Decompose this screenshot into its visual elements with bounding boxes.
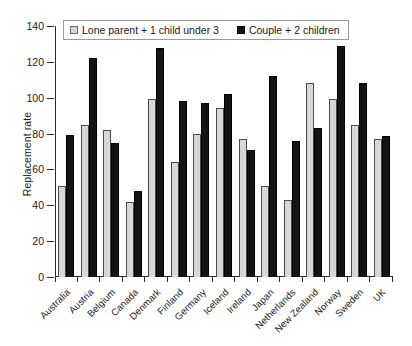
y-axis-tick-label: 140	[26, 20, 44, 32]
bar-lone-parent	[351, 125, 359, 277]
y-axis-tick-label: 0	[38, 271, 44, 283]
x-axis-tick	[190, 277, 213, 282]
bar-lone-parent	[306, 83, 314, 277]
legend-swatch-icon-couple	[237, 26, 245, 34]
x-axis-ticks	[55, 277, 393, 282]
bar-group	[370, 26, 393, 277]
bar-couple	[156, 48, 164, 277]
bar-lone-parent	[171, 162, 179, 277]
x-axis-tick	[55, 277, 78, 282]
bar-group	[235, 26, 258, 277]
chart-legend: Lone parent + 1 child under 3 Couple + 2…	[63, 20, 349, 40]
x-axis-label-cell: Sweden	[348, 283, 371, 343]
bar-group	[190, 26, 213, 277]
y-axis-tick	[47, 134, 54, 135]
bar-group	[213, 26, 236, 277]
y-axis-tick-label: 120	[26, 56, 44, 68]
y-axis-tick-label: 20	[32, 235, 44, 247]
legend-item-couple: Couple + 2 children	[237, 24, 340, 36]
bar-lone-parent	[329, 99, 337, 277]
y-axis-tick	[47, 62, 54, 63]
y-axis-tick-label: 100	[26, 92, 44, 104]
x-axis-tick	[303, 277, 326, 282]
bar-group	[325, 26, 348, 277]
bar-couple	[89, 58, 97, 277]
x-axis-tick	[123, 277, 146, 282]
x-axis-tick	[348, 277, 371, 282]
bar-lone-parent	[126, 202, 134, 277]
bar-lone-parent	[81, 125, 89, 277]
x-axis-tick	[280, 277, 303, 282]
bar-couple	[66, 135, 74, 277]
bar-group	[145, 26, 168, 277]
y-axis-tick-label: 80	[32, 128, 44, 140]
bar-couple	[382, 136, 390, 277]
bar-group	[55, 26, 78, 277]
y-axis-tick	[47, 26, 54, 27]
plot-area: 020406080100120140	[55, 26, 393, 277]
bar-group	[280, 26, 303, 277]
bar-group	[78, 26, 101, 277]
bar-chart: Replacement rate 020406080100120140 Aust…	[0, 0, 412, 346]
x-axis-label-cell: UK	[370, 283, 393, 343]
bar-group	[258, 26, 281, 277]
bar-couple	[314, 128, 322, 277]
bar-lone-parent	[261, 186, 269, 277]
bar-lone-parent	[148, 99, 156, 277]
y-axis-tick	[47, 277, 54, 278]
y-axis-tick-label: 40	[32, 199, 44, 211]
bar-couple	[179, 101, 187, 277]
bar-group	[123, 26, 146, 277]
x-axis-labels: AustraliaAustriaBelgiumCanadaDenmarkFinl…	[55, 283, 393, 343]
bar-group	[348, 26, 371, 277]
y-axis-tick	[47, 169, 54, 170]
x-axis-tick	[168, 277, 191, 282]
y-axis-tick	[47, 205, 54, 206]
x-axis-tick	[100, 277, 123, 282]
legend-item-lone-parent: Lone parent + 1 child under 3	[70, 24, 219, 36]
bar-group	[303, 26, 326, 277]
x-axis-label-cell: Ireland	[235, 283, 258, 343]
bar-couple	[247, 150, 255, 277]
bar-lone-parent	[216, 108, 224, 277]
legend-label-lone-parent: Lone parent + 1 child under 3	[82, 24, 219, 36]
bar-groups	[55, 26, 393, 277]
bar-couple	[359, 83, 367, 277]
chart-title	[0, 0, 412, 8]
bar-couple	[134, 191, 142, 277]
x-axis-label: UK	[371, 286, 388, 303]
bar-couple	[111, 143, 119, 277]
y-axis-tick	[47, 98, 54, 99]
bar-couple	[269, 76, 277, 277]
x-axis-tick	[78, 277, 101, 282]
x-axis-tick	[258, 277, 281, 282]
bar-couple	[292, 141, 300, 277]
legend-label-couple: Couple + 2 children	[249, 24, 340, 36]
bar-lone-parent	[239, 139, 247, 277]
legend-swatch-icon-lone-parent	[70, 26, 78, 34]
bar-lone-parent	[193, 134, 201, 277]
y-axis-tick	[47, 241, 54, 242]
bar-lone-parent	[58, 186, 66, 277]
bar-group	[100, 26, 123, 277]
x-axis-tick	[370, 277, 393, 282]
x-axis-tick	[325, 277, 348, 282]
bar-couple	[201, 103, 209, 277]
x-axis-label: Australia	[38, 286, 73, 321]
x-axis-tick	[213, 277, 236, 282]
x-axis-tick	[145, 277, 168, 282]
bar-couple	[224, 94, 232, 277]
bar-lone-parent	[103, 130, 111, 277]
bar-group	[168, 26, 191, 277]
y-axis-tick-label: 60	[32, 163, 44, 175]
bar-couple	[337, 46, 345, 277]
bar-lone-parent	[284, 200, 292, 277]
x-axis-tick	[235, 277, 258, 282]
bar-lone-parent	[374, 139, 382, 277]
